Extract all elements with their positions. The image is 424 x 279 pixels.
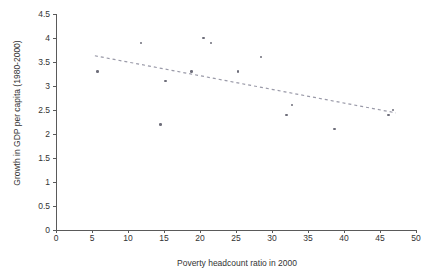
x-tick-mark: [380, 230, 381, 233]
y-tick-mark: [53, 182, 56, 183]
x-tick-label: 0: [44, 234, 68, 243]
y-tick-label: 3.5: [24, 58, 50, 66]
y-tick-label: 2.5: [24, 106, 50, 114]
x-tick-label: 15: [152, 234, 176, 243]
x-tick-label: 35: [296, 234, 320, 243]
x-tick-label: 5: [80, 234, 104, 243]
x-tick-mark: [92, 230, 93, 233]
x-tick-label: 30: [260, 234, 284, 243]
y-tick-mark: [53, 158, 56, 159]
x-tick-mark: [416, 230, 417, 233]
x-tick-mark: [128, 230, 129, 233]
y-tick-mark: [53, 14, 56, 15]
x-tick-mark: [164, 230, 165, 233]
y-tick-label: 1.5: [24, 154, 50, 162]
y-tick-label: 0.5: [24, 202, 50, 210]
trendline-segment: [95, 56, 396, 113]
x-tick-label: 45: [368, 234, 392, 243]
x-tick-mark: [308, 230, 309, 233]
x-tick-label: 50: [404, 234, 424, 243]
y-tick-mark: [53, 38, 56, 39]
x-tick-label: 25: [224, 234, 248, 243]
x-axis-label: Poverty headcount ratio in 2000: [52, 258, 422, 268]
y-tick-mark: [53, 86, 56, 87]
y-tick-mark: [53, 134, 56, 135]
y-tick-label: 4: [24, 34, 50, 42]
y-tick-mark: [53, 110, 56, 111]
x-tick-label: 40: [332, 234, 356, 243]
x-tick-mark: [272, 230, 273, 233]
trendline: [56, 14, 416, 230]
y-tick-mark: [53, 62, 56, 63]
x-tick-label: 10: [116, 234, 140, 243]
y-tick-label: 0: [24, 226, 50, 234]
y-tick-label: 4.5: [24, 10, 50, 18]
y-tick-label: 1: [24, 178, 50, 186]
x-tick-mark: [56, 230, 57, 233]
chart-title: [60, 0, 380, 2]
y-tick-label: 2: [24, 130, 50, 138]
x-tick-mark: [344, 230, 345, 233]
y-tick-mark: [53, 206, 56, 207]
x-tick-label: 20: [188, 234, 212, 243]
x-tick-mark: [200, 230, 201, 233]
x-tick-mark: [236, 230, 237, 233]
y-tick-label: 3: [24, 82, 50, 90]
scatter-chart: Growth in GDP per capita (1980-2000) 00.…: [0, 0, 424, 279]
x-axis-ticks: 05101520253035404550: [0, 234, 424, 248]
